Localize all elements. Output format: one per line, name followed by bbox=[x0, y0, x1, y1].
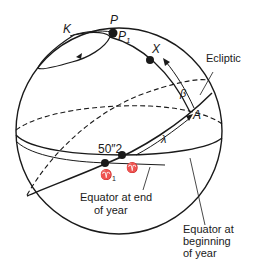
label-aries: ♈ bbox=[126, 161, 138, 174]
aries1-dot bbox=[101, 159, 109, 167]
label-P1: P1 bbox=[118, 29, 130, 45]
label-aries1: ♈1 bbox=[100, 168, 116, 182]
pole-P1-dot bbox=[109, 29, 118, 38]
beta-arrow bbox=[163, 58, 170, 66]
label-equator-beginning: Equator at beginning of year bbox=[183, 223, 237, 259]
label-equator-end: Equator at end of year bbox=[80, 191, 155, 216]
star-X-dot bbox=[146, 56, 154, 64]
equator-back-dashed bbox=[16, 106, 222, 130]
equator-end-leader bbox=[143, 167, 150, 190]
label-lambda: λ bbox=[160, 133, 166, 145]
precession-direction-arrow bbox=[76, 53, 82, 59]
label-precession-amount: 50″2 bbox=[98, 142, 123, 156]
celestial-sphere-diagram: P P1 K X Ecliptic β A λ 50″2 ♈ ♈1 Equato… bbox=[0, 0, 260, 269]
label-beta: β bbox=[179, 87, 187, 99]
meridian-through-X bbox=[110, 37, 190, 112]
label-P: P bbox=[110, 13, 118, 27]
label-K: K bbox=[63, 22, 72, 36]
label-A: A bbox=[192, 108, 201, 122]
label-X: X bbox=[151, 42, 161, 56]
label-ecliptic: Ecliptic bbox=[206, 52, 241, 64]
